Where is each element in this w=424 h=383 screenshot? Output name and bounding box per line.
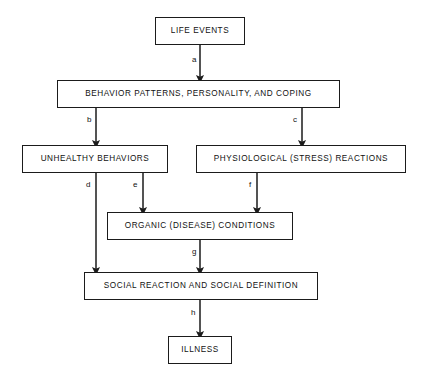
node-label: LIFE EVENTS [171, 26, 229, 35]
node-label: SOCIAL REACTION AND SOCIAL DEFINITION [104, 281, 298, 290]
node-organic-conditions: ORGANIC (DISEASE) CONDITIONS [107, 212, 293, 240]
edge-label-e: e [133, 181, 137, 189]
node-label: UNHEALTHY BEHAVIORS [41, 154, 150, 163]
flowchart-diagram: LIFE EVENTS BEHAVIOR PATTERNS, PERSONALI… [0, 0, 424, 383]
node-label: BEHAVIOR PATTERNS, PERSONALITY, AND COPI… [85, 89, 311, 98]
edge-layer [0, 0, 424, 383]
node-life-events: LIFE EVENTS [155, 17, 245, 45]
node-social-reaction: SOCIAL REACTION AND SOCIAL DEFINITION [84, 272, 318, 300]
edge-label-g: g [192, 248, 196, 256]
node-behavior-patterns: BEHAVIOR PATTERNS, PERSONALITY, AND COPI… [57, 80, 340, 108]
node-label: ORGANIC (DISEASE) CONDITIONS [125, 221, 276, 230]
edge-label-b: b [87, 116, 91, 124]
edge-label-d: d [86, 181, 90, 189]
node-label: PHYSIOLOGICAL (STRESS) REACTIONS [214, 154, 388, 163]
edge-label-h: h [191, 309, 195, 317]
node-label: ILLNESS [181, 345, 219, 354]
edge-label-f: f [249, 181, 251, 189]
edge-label-a: a [192, 56, 196, 64]
node-illness: ILLNESS [168, 336, 232, 364]
edge-label-c: c [293, 116, 297, 124]
node-physiological-reactions: PHYSIOLOGICAL (STRESS) REACTIONS [196, 145, 406, 173]
node-unhealthy-behaviors: UNHEALTHY BEHAVIORS [22, 145, 168, 173]
